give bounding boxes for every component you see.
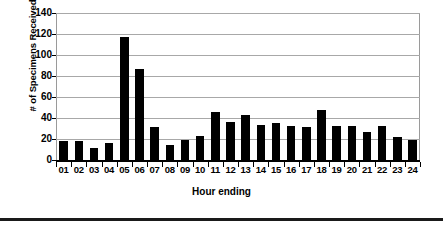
bar: [302, 127, 311, 160]
bar: [226, 122, 235, 160]
y-tick-label: 60: [6, 92, 52, 102]
x-tick-label: 15: [268, 164, 283, 176]
x-axis-title: Hour ending: [0, 186, 443, 197]
bar: [150, 127, 159, 160]
bar: [90, 148, 99, 160]
x-tick-label: 09: [177, 164, 192, 176]
x-tick-label: 10: [193, 164, 208, 176]
x-tick-label: 07: [147, 164, 162, 176]
y-tick-label: 0: [6, 155, 52, 165]
bar: [287, 126, 296, 160]
x-axis-tick-labels: 0102030405060708091011121314151617181920…: [56, 164, 420, 178]
bar: [181, 140, 190, 160]
bar: [272, 123, 281, 160]
x-tick-label: 17: [299, 164, 314, 176]
bar-series: [56, 13, 420, 160]
bar: [378, 126, 387, 160]
x-tick-label: 24: [405, 164, 420, 176]
x-tick-label: 12: [223, 164, 238, 176]
y-tick-label: 40: [6, 113, 52, 123]
bar: [135, 69, 144, 160]
bar: [105, 143, 114, 160]
x-tick-label: 23: [390, 164, 405, 176]
x-tick-label: 21: [359, 164, 374, 176]
x-tick-label: 19: [329, 164, 344, 176]
y-tick-label: 80: [6, 71, 52, 81]
bar: [332, 126, 341, 160]
plot-area: [56, 13, 420, 161]
y-tick-label: 100: [6, 50, 52, 60]
x-tick-label: 13: [238, 164, 253, 176]
x-tick-label: 06: [132, 164, 147, 176]
x-tick-label: 11: [208, 164, 223, 176]
bar: [363, 132, 372, 160]
y-tick-label: 140: [6, 8, 52, 18]
x-tick-label: 20: [344, 164, 359, 176]
x-tick-label: 01: [56, 164, 71, 176]
bar: [241, 115, 250, 160]
x-tick-label: 02: [71, 164, 86, 176]
x-tick-label: 16: [284, 164, 299, 176]
x-tick-label: 18: [314, 164, 329, 176]
bar: [166, 145, 175, 160]
bottom-divider-rule: [0, 218, 443, 221]
bar: [348, 126, 357, 160]
bar: [75, 141, 84, 160]
x-tick-label: 04: [102, 164, 117, 176]
y-tick-label: 120: [6, 29, 52, 39]
x-tick-mark: [420, 162, 421, 167]
bar: [196, 136, 205, 160]
bar: [408, 140, 417, 160]
x-tick-label: 08: [162, 164, 177, 176]
x-tick-label: 22: [375, 164, 390, 176]
bar: [211, 112, 220, 160]
bar: [59, 141, 68, 160]
y-axis-ticks: 020406080100120140: [0, 13, 52, 161]
bar: [120, 37, 129, 160]
bar-chart-figure: # of Specimens Received 0204060801001201…: [0, 0, 443, 227]
bar: [257, 125, 266, 160]
x-tick-label: 05: [117, 164, 132, 176]
bar: [393, 137, 402, 160]
y-tick-label: 20: [6, 134, 52, 144]
bar: [317, 110, 326, 160]
x-tick-label: 14: [253, 164, 268, 176]
x-tick-label: 03: [86, 164, 101, 176]
